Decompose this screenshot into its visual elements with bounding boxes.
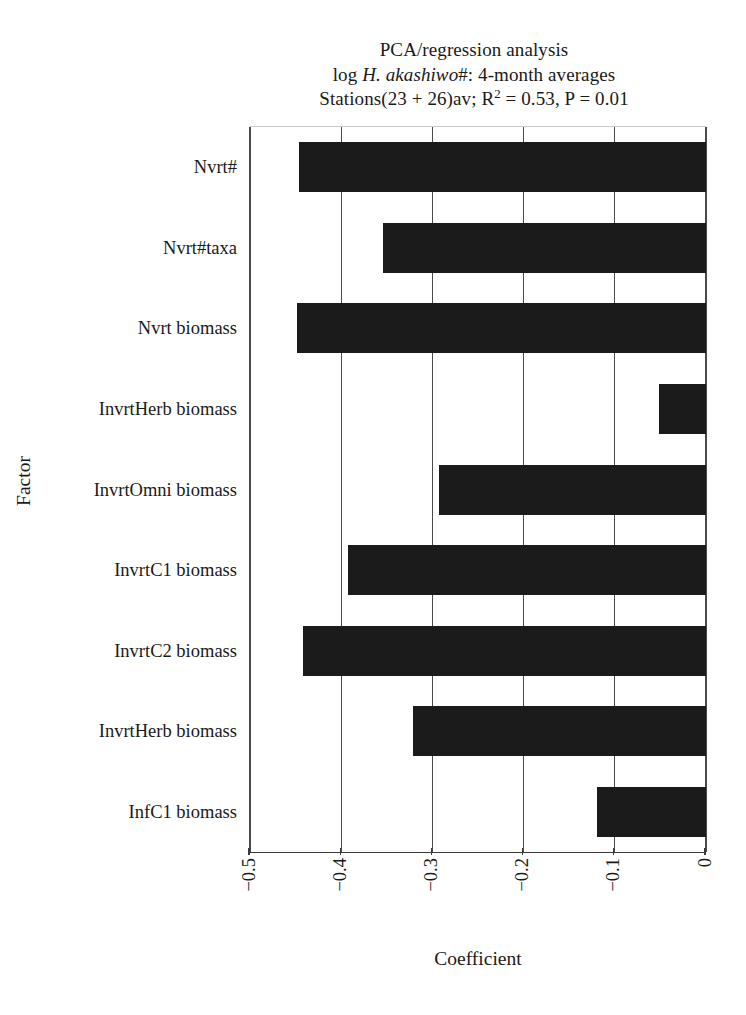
bar-row (250, 706, 706, 756)
y-axis-label: InfC1 biomass (0, 801, 249, 822)
x-axis-tick-label: 0 (695, 858, 716, 867)
bar-row (250, 303, 706, 353)
x-axis-title: Coefficient (249, 948, 707, 970)
y-axis-label: InvrtHerb biomass (0, 721, 249, 742)
title-line2-suffix: #: 4-month averages (458, 64, 615, 85)
chart-title-line-3: Stations(23 + 26)av; R2 = 0.53, P = 0.01 (243, 87, 705, 112)
bar-row (250, 142, 706, 192)
x-axis-tick-labels: −0.5−0.4−0.3−0.2−0.10 (249, 854, 707, 922)
x-axis-tick-label: −0.3 (421, 858, 442, 892)
chart-figure: PCA/regression analysis log H. akashiwo#… (0, 0, 746, 1015)
bar[interactable] (413, 706, 706, 756)
bar-row (250, 223, 706, 273)
bar[interactable] (597, 787, 706, 837)
bar-row (250, 626, 706, 676)
x-axis-tick-mark (704, 848, 705, 855)
x-axis-tick-mark (431, 848, 432, 855)
y-axis-label: InvrtOmni biomass (0, 479, 249, 500)
y-axis-label: Nvrt biomass (0, 318, 249, 339)
plot-top-rule (250, 126, 706, 127)
title-line3-prefix: Stations(23 + 26)av; R (319, 88, 494, 109)
title-line2-species: H. akashiwo (362, 64, 458, 85)
bar-row (250, 465, 706, 515)
x-axis-tick-mark (522, 848, 523, 855)
x-axis-tick-mark (248, 848, 249, 855)
y-axis-title: Factor (13, 421, 35, 541)
x-axis-tick-label: −0.1 (603, 858, 624, 892)
chart-title-line-1: PCA/regression analysis (243, 38, 705, 63)
bar[interactable] (659, 384, 706, 434)
x-axis-tick-mark (340, 848, 341, 855)
title-line2-prefix: log (333, 64, 362, 85)
y-axis-label: InvrtC1 biomass (0, 560, 249, 581)
bar[interactable] (383, 223, 706, 273)
bar-row (250, 545, 706, 595)
bar[interactable] (297, 303, 706, 353)
bar[interactable] (439, 465, 706, 515)
bar[interactable] (348, 545, 706, 595)
plot-area (249, 127, 706, 853)
chart-title: PCA/regression analysis log H. akashiwo#… (243, 38, 705, 112)
x-axis-tick-mark (613, 848, 614, 855)
y-axis-category-labels: Nvrt#Nvrt#taxaNvrt biomassInvrtHerb biom… (0, 127, 249, 852)
x-axis-tick-label: −0.5 (239, 858, 260, 892)
bar[interactable] (299, 142, 706, 192)
y-axis-label: Nvrt# (0, 157, 249, 178)
bar-row (250, 384, 706, 434)
y-axis-label: Nvrt#taxa (0, 237, 249, 258)
y-axis-label: InvrtC2 biomass (0, 640, 249, 661)
x-axis-tick-label: −0.4 (330, 858, 351, 892)
bar[interactable] (303, 626, 706, 676)
bar-row (250, 787, 706, 837)
title-line3-suffix: = 0.53, P = 0.01 (501, 88, 629, 109)
y-axis-label: InvrtHerb biomass (0, 398, 249, 419)
x-axis-tick-label: −0.2 (512, 858, 533, 892)
chart-title-line-2: log H. akashiwo#: 4-month averages (243, 63, 705, 88)
